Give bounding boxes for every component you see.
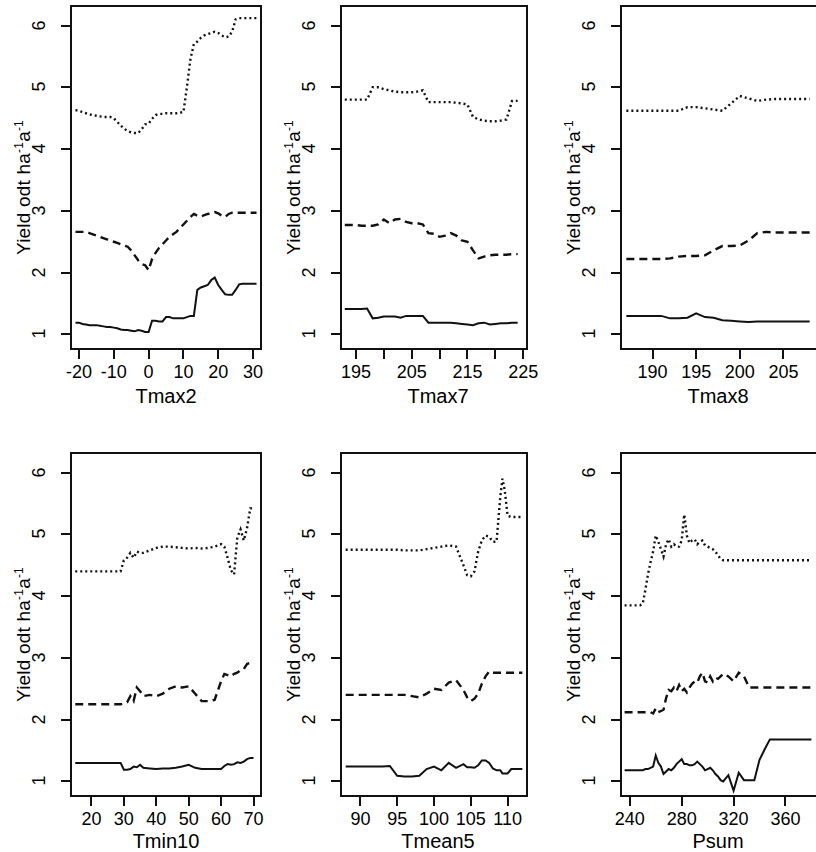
- y-tick-mark: [611, 657, 620, 659]
- y-tick-mark: [331, 210, 340, 212]
- series-canvas: [622, 7, 814, 348]
- x-tick-mark: [466, 350, 468, 359]
- y-tick-label: 4: [29, 579, 50, 613]
- x-tick-mark: [78, 350, 80, 359]
- y-tick-label: 1: [579, 317, 600, 351]
- y-tick-label: 3: [29, 193, 50, 227]
- series-upper: [345, 87, 518, 121]
- y-tick-label: 2: [579, 255, 600, 289]
- y-tick-label: 4: [299, 132, 320, 166]
- x-tick-mark: [695, 350, 697, 359]
- y-tick-label: 6: [579, 8, 600, 42]
- y-tick-label: 1: [299, 764, 320, 798]
- plot-area: [340, 452, 528, 797]
- y-tick-mark: [61, 472, 70, 474]
- plot-area: [70, 452, 262, 797]
- x-tick-mark: [155, 797, 157, 806]
- x-tick-mark: [113, 350, 115, 359]
- series-canvas: [622, 454, 814, 795]
- y-tick-mark: [61, 333, 70, 335]
- y-tick-label: 2: [29, 702, 50, 736]
- y-tick-mark: [331, 333, 340, 335]
- x-tick-mark: [355, 350, 357, 359]
- y-tick-label: 6: [29, 455, 50, 489]
- x-axis-label: Tmax7: [358, 385, 518, 408]
- x-tick-mark: [739, 350, 741, 359]
- x-tick-mark: [629, 797, 631, 806]
- x-axis-label: Tmax8: [638, 385, 798, 408]
- y-tick-mark: [61, 86, 70, 88]
- y-tick-label: 6: [299, 455, 320, 489]
- x-axis-label: Tmax2: [86, 385, 246, 408]
- series-upper: [625, 515, 812, 606]
- y-tick-label: 3: [299, 193, 320, 227]
- plot-area: [70, 5, 262, 350]
- y-tick-label: 2: [299, 702, 320, 736]
- x-tick-mark: [494, 350, 496, 359]
- x-tick-mark: [148, 350, 150, 359]
- series-lower: [75, 278, 256, 332]
- x-tick-label: 110: [468, 809, 548, 830]
- y-tick-mark: [611, 333, 620, 335]
- x-tick-mark: [252, 350, 254, 359]
- series-middle: [75, 663, 253, 704]
- y-tick-mark: [611, 533, 620, 535]
- y-tick-mark: [611, 25, 620, 27]
- y-tick-label: 5: [29, 517, 50, 551]
- y-tick-label: 3: [29, 640, 50, 674]
- series-upper: [346, 479, 523, 577]
- y-tick-label: 5: [299, 517, 320, 551]
- y-tick-mark: [61, 272, 70, 274]
- x-axis-label: Tmin10: [86, 830, 246, 852]
- series-middle: [626, 232, 809, 259]
- y-tick-mark: [331, 657, 340, 659]
- y-tick-mark: [331, 86, 340, 88]
- x-tick-label: 205: [743, 362, 816, 383]
- series-middle: [345, 219, 518, 259]
- y-tick-mark: [611, 148, 620, 150]
- series-lower: [625, 739, 812, 790]
- y-tick-label: 4: [299, 579, 320, 613]
- series-canvas: [72, 7, 260, 348]
- y-tick-mark: [331, 25, 340, 27]
- y-tick-mark: [611, 210, 620, 212]
- y-tick-label: 1: [29, 317, 50, 351]
- y-tick-label: 5: [29, 70, 50, 104]
- y-tick-label: 3: [579, 193, 600, 227]
- x-tick-mark: [433, 797, 435, 806]
- y-tick-label: 6: [579, 455, 600, 489]
- x-tick-label: 30: [213, 362, 293, 383]
- x-tick-mark: [182, 350, 184, 359]
- y-tick-label: 4: [579, 132, 600, 166]
- x-tick-mark: [188, 797, 190, 806]
- y-tick-label: 1: [299, 317, 320, 351]
- series-lower: [346, 760, 523, 776]
- y-tick-mark: [611, 719, 620, 721]
- y-tick-mark: [61, 780, 70, 782]
- y-tick-mark: [611, 472, 620, 474]
- x-tick-mark: [470, 797, 472, 806]
- series-upper: [75, 508, 253, 574]
- series-canvas: [342, 7, 526, 348]
- y-tick-mark: [331, 719, 340, 721]
- y-tick-mark: [331, 533, 340, 535]
- y-tick-label: 4: [29, 132, 50, 166]
- y-tick-mark: [331, 148, 340, 150]
- y-tick-mark: [611, 595, 620, 597]
- series-middle: [346, 671, 523, 701]
- y-tick-label: 2: [29, 255, 50, 289]
- y-tick-mark: [61, 719, 70, 721]
- series-lower: [75, 758, 253, 770]
- series-lower: [626, 313, 809, 322]
- x-tick-mark: [507, 797, 509, 806]
- y-tick-mark: [611, 86, 620, 88]
- series-upper: [626, 96, 809, 111]
- series-middle: [625, 673, 812, 714]
- x-tick-mark: [90, 797, 92, 806]
- y-tick-label: 3: [579, 640, 600, 674]
- y-tick-label: 1: [29, 764, 50, 798]
- y-tick-label: 5: [579, 517, 600, 551]
- y-tick-mark: [61, 657, 70, 659]
- y-tick-label: 6: [299, 8, 320, 42]
- x-tick-mark: [652, 350, 654, 359]
